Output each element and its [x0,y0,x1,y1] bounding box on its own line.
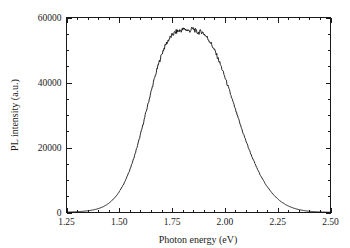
pl-spectrum-figure: 1.251.501.752.002.252.50 020000400006000… [0,0,350,248]
x-tick-label: 2.50 [322,217,339,227]
x-tick-label: 2.00 [217,217,234,227]
x-tick-label: 1.25 [58,217,75,227]
x-axis-ticks [68,18,332,213]
y-tick-label: 20000 [38,143,62,153]
y-tick-label: 40000 [38,78,62,88]
plot-frame [67,18,331,213]
x-tick-label: 1.50 [111,217,128,227]
y-axis-ticks [67,19,331,214]
x-axis-tick-labels: 1.251.501.752.002.252.50 [58,217,339,227]
chart-canvas: 1.251.501.752.002.252.50 020000400006000… [0,0,350,248]
y-axis-tick-labels: 0200004000060000 [38,13,62,218]
y-tick-label: 60000 [38,13,62,23]
pl-intensity-curve [67,27,331,212]
y-tick-label: 0 [57,208,62,218]
y-axis-title: PL intensity (a.u.) [9,79,21,151]
x-axis-title: Photon energy (eV) [159,234,238,246]
x-tick-label: 1.75 [164,217,181,227]
x-tick-label: 2.25 [269,217,286,227]
